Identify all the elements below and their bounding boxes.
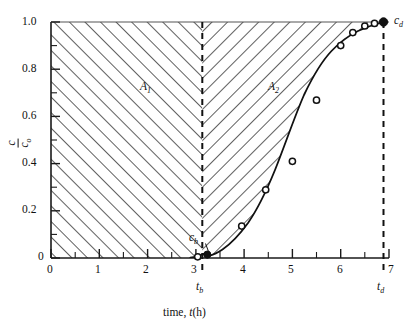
- region-a2-hatch: [202, 22, 383, 258]
- x-tick-label-0: 0: [47, 263, 53, 275]
- x-axis-title-unit: (h): [192, 306, 205, 318]
- y-axis-title-numerator: c: [6, 138, 18, 147]
- data-point: [313, 97, 319, 103]
- region-a1-hatch: [51, 22, 210, 258]
- y-axis-title: cco: [4, 126, 34, 160]
- x-tick-label-1: 1: [95, 263, 101, 275]
- data-point: [350, 29, 356, 35]
- x-axis-title: time, t(h): [163, 306, 206, 318]
- data-point: [338, 43, 344, 49]
- x-tick-label-5: 5: [288, 263, 294, 275]
- y-tick-label-1-0: 1.0: [22, 15, 36, 27]
- y-axis-title-denominator: co: [17, 138, 32, 147]
- x-tick-label-4: 4: [240, 263, 246, 275]
- x-tick-label-3: 3: [191, 263, 197, 275]
- y-tick-label-0-2: 0.2: [22, 203, 36, 215]
- x-tick-label-6: 6: [337, 263, 343, 275]
- data-point: [362, 23, 368, 29]
- axis-marker-tb: tb: [196, 280, 203, 295]
- data-point: [239, 223, 245, 229]
- chart-canvas: [0, 0, 419, 330]
- area-label-a2: A2: [268, 80, 279, 95]
- y-tick-label-0-8: 0.8: [22, 62, 36, 74]
- highlight-point-cb: [204, 251, 211, 258]
- area-label-a1: A1: [140, 80, 151, 95]
- data-point: [195, 254, 201, 260]
- y-tick-label-0-6: 0.6: [22, 109, 36, 121]
- data-point: [263, 187, 269, 193]
- x-axis-title-text: time,: [163, 306, 189, 318]
- point-label-cd: cd: [394, 14, 403, 29]
- point-label-cb: cb: [189, 231, 198, 246]
- x-tick-label-7: 7: [388, 263, 394, 275]
- data-point: [371, 20, 377, 26]
- y-tick-label-0: 0: [38, 250, 44, 262]
- x-tick-label-2: 2: [143, 263, 149, 275]
- data-point: [289, 158, 295, 164]
- axis-marker-td: td: [377, 280, 384, 295]
- breakthrough-curve-figure: 1.0 0.8 0.6 0.4 0.2 0 cco 0 1 2 3 4 5 6 …: [0, 0, 419, 330]
